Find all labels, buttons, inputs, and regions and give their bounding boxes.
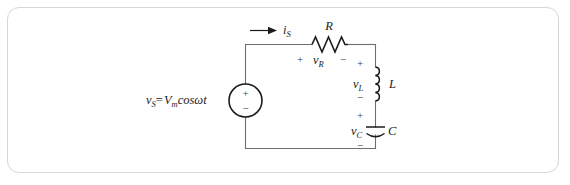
inductor-coil-2 — [376, 76, 380, 85]
resistor-label: R — [324, 19, 333, 33]
resistor-symbol — [312, 37, 348, 52]
figure-root: + − vS=Vmcosωt iS R + vR − — [0, 0, 570, 185]
resistor-plus-sign: + — [297, 53, 303, 65]
capacitor-minus-sign: − — [357, 139, 363, 151]
source-expression-label: vS=Vmcosωt — [146, 93, 207, 109]
capacitor-voltage-label: vC — [351, 124, 363, 140]
circuit-diagram: + − vS=Vmcosωt iS R + vR − — [0, 0, 570, 185]
inductor-label: L — [388, 77, 396, 91]
inductor-symbol — [376, 67, 380, 101]
source-plus-sign: + — [242, 87, 248, 99]
inductor-coil-1 — [376, 67, 380, 76]
inductor-minus-sign: − — [357, 91, 363, 103]
current-label: iS — [283, 23, 291, 39]
inductor-coil-3 — [376, 84, 380, 93]
current-arrow — [250, 27, 277, 34]
voltage-source-symbol: + − — [229, 84, 262, 117]
current-arrow-head — [268, 27, 277, 34]
capacitor-plus-sign: + — [357, 109, 363, 121]
resistor-minus-sign: − — [340, 53, 346, 65]
inductor-plus-sign: + — [357, 57, 363, 69]
inductor-coil-4 — [376, 93, 380, 102]
resistor-zigzag — [312, 37, 348, 52]
resistor-voltage-label: vR — [313, 53, 325, 69]
capacitor-label: C — [388, 124, 397, 138]
source-minus-sign: − — [242, 102, 248, 114]
